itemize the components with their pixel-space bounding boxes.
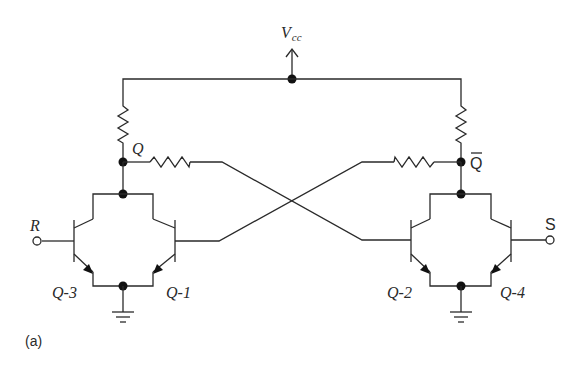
set-input-terminal — [546, 236, 554, 244]
transistor-q3-label: Q-3 — [52, 284, 77, 301]
vcc-supply: Vcc — [281, 24, 302, 84]
transistor-q2: Q-2 — [387, 219, 461, 301]
cross-coupling-qbar-to-q1 — [175, 157, 461, 241]
reset-input-label: R — [29, 217, 40, 234]
q-bar-output-label: Q — [470, 155, 482, 172]
right-load-resistor — [456, 104, 466, 162]
transistor-q3: R Q-3 — [29, 217, 123, 301]
ground-icon — [450, 286, 472, 322]
cross-coupling-q-to-q2 — [123, 157, 411, 240]
transistor-q2-label: Q-2 — [387, 284, 412, 301]
transistor-q1-label: Q-1 — [166, 284, 191, 301]
reset-input-terminal — [33, 237, 41, 245]
vcc-label: Vcc — [281, 24, 302, 43]
transistor-q4: S Q-4 — [461, 216, 556, 301]
ground-icon — [112, 286, 134, 322]
transistor-q4-label: Q-4 — [500, 284, 525, 301]
transistor-q1: Q-1 — [123, 219, 191, 301]
flip-flop-schematic: Vcc Q Q R Q-3 — [0, 0, 586, 366]
set-input-label: S — [545, 216, 556, 233]
figure-label: (a) — [25, 333, 42, 349]
q-output-label: Q — [132, 140, 144, 157]
left-load-resistor — [118, 104, 128, 162]
